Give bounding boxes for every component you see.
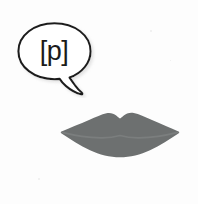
speech-bubble: [p]	[14, 20, 100, 98]
lips-icon	[56, 106, 184, 162]
speech-bubble-icon	[14, 20, 100, 98]
figure-canvas: [p]	[0, 0, 198, 204]
lips-illustration	[56, 106, 184, 162]
paper-speck	[150, 30, 152, 32]
paper-speck	[170, 60, 171, 61]
speech-bubble-outline	[18, 23, 90, 94]
paper-speck	[38, 178, 40, 180]
